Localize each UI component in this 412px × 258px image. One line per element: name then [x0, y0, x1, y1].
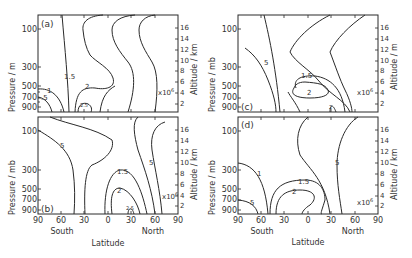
scale-note: x106: [162, 191, 178, 201]
svg-text:90: 90: [173, 216, 183, 225]
panel-b-frame: [38, 117, 178, 214]
svg-text:2: 2: [380, 100, 384, 108]
figure: (a) 1.5 1 .5 2 2.5 x106: [0, 0, 412, 258]
svg-text:90: 90: [33, 216, 43, 225]
contour-2-inner: [100, 86, 115, 112]
svg-text:500: 500: [222, 185, 237, 194]
svg-text:16: 16: [380, 126, 389, 134]
svg-text:30: 30: [79, 216, 89, 225]
svg-text:2: 2: [180, 100, 184, 108]
svg-text:0: 0: [105, 216, 110, 225]
svg-text:900: 900: [22, 103, 37, 112]
svg-text:16: 16: [180, 126, 189, 134]
svg-text:4: 4: [180, 89, 185, 97]
svg-text:4: 4: [380, 192, 385, 200]
svg-text:500: 500: [22, 82, 37, 91]
svg-text:12: 12: [180, 46, 189, 54]
left-y-ticks-c: 100 300 500 700 900: [222, 25, 237, 112]
svg-text:8: 8: [180, 170, 184, 178]
y2-axis-title-b: Altitude / km: [190, 148, 199, 200]
svg-text:4: 4: [380, 89, 385, 97]
svg-text:300: 300: [222, 166, 237, 175]
panel-d-label: (d): [241, 120, 254, 130]
svg-text:500: 500: [222, 82, 237, 91]
panel-a-labels: (a) 1.5 1 .5 2 2.5 x106: [41, 19, 174, 108]
y-axis-title-d: Pressure / mb: [208, 160, 217, 215]
svg-text:10: 10: [380, 159, 389, 167]
scale-note: x106: [158, 87, 174, 97]
panel-b: [38, 117, 178, 214]
svg-text:90: 90: [373, 216, 383, 225]
svg-text:6: 6: [380, 181, 385, 189]
svg-text:12: 12: [180, 148, 189, 156]
svg-text:10: 10: [180, 159, 189, 167]
contour-label: .5: [41, 94, 48, 102]
svg-text:14: 14: [180, 35, 189, 43]
svg-text:100: 100: [22, 127, 37, 136]
panel-b-label: (b): [41, 204, 54, 214]
panel-c-labels: (c) 5 1.5 2 2 x106: [241, 59, 373, 112]
x-axis-title-left: Latitude: [92, 239, 125, 248]
contour-1-north: [330, 15, 365, 112]
y2-axis-title-a: Altitude / km: [190, 43, 199, 95]
svg-text:12: 12: [380, 148, 389, 156]
x-axis-title-right: Latitude: [292, 238, 325, 247]
contour-5-north: [139, 15, 157, 112]
svg-text:14: 14: [180, 137, 189, 145]
panel-a-label: (a): [41, 19, 54, 29]
svg-text:900: 900: [22, 206, 37, 215]
svg-text:60: 60: [150, 216, 160, 225]
y-axis-title-b: Pressure / mb: [8, 160, 17, 215]
contour-label: 1: [257, 170, 261, 178]
scale-note: x106: [357, 197, 373, 207]
svg-text:60: 60: [56, 216, 66, 225]
svg-text:0: 0: [305, 216, 310, 225]
contour-label: 1.5: [117, 168, 128, 176]
right-y-ticks-d: 1614 1210 86 42: [380, 126, 389, 210]
contour-1-north: [112, 15, 135, 112]
contour-1-5: [62, 15, 69, 112]
contour-label: 5: [60, 142, 64, 150]
svg-text:100: 100: [222, 25, 237, 34]
south-label: South: [250, 227, 273, 236]
contour-label: 2: [307, 89, 311, 97]
svg-text:6: 6: [180, 181, 185, 189]
svg-text:14: 14: [380, 35, 389, 43]
svg-text:100: 100: [22, 25, 37, 34]
svg-text:14: 14: [380, 137, 389, 145]
svg-text:60: 60: [350, 216, 360, 225]
north-label: North: [142, 227, 164, 236]
svg-text:900: 900: [222, 206, 237, 215]
svg-text:30: 30: [326, 216, 336, 225]
svg-text:2: 2: [380, 202, 384, 210]
svg-text:8: 8: [180, 67, 184, 75]
x-ticks-b: 9060 300 3060 90 South North Latitude: [33, 216, 183, 248]
contour-label: 2: [117, 187, 121, 195]
scale-note: x106: [357, 87, 373, 97]
svg-text:10: 10: [180, 57, 189, 65]
svg-text:500: 500: [22, 185, 37, 194]
svg-text:90: 90: [233, 216, 243, 225]
svg-text:700: 700: [22, 93, 37, 102]
contour-2: [75, 15, 114, 112]
contour-label: 2.5: [80, 102, 88, 108]
x-ticks-d: 9060 300 3060 90 South North Latitude: [233, 216, 383, 247]
contour-label: 2: [85, 83, 89, 91]
contour-label: 5: [250, 199, 254, 207]
svg-text:8: 8: [380, 170, 384, 178]
svg-text:4: 4: [180, 192, 185, 200]
svg-text:30: 30: [279, 216, 289, 225]
left-y-ticks-d: 100 300 500 700 900: [222, 127, 237, 215]
contour-label: 5: [264, 59, 268, 67]
panel-a: [38, 15, 178, 112]
svg-text:300: 300: [22, 166, 37, 175]
contour-1-5: [295, 76, 345, 112]
svg-text:2: 2: [180, 202, 184, 210]
svg-text:12: 12: [380, 46, 389, 54]
contour-label: 5: [149, 159, 153, 167]
y2-axis-title-d: Altitude / km: [390, 148, 399, 200]
panel-c: [238, 15, 378, 112]
svg-text:700: 700: [22, 195, 37, 204]
svg-text:100: 100: [222, 127, 237, 136]
left-y-ticks-b: 100 300 500 700 900: [22, 127, 37, 215]
